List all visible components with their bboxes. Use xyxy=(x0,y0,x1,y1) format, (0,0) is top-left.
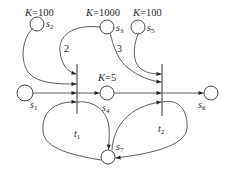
place-s2 xyxy=(30,17,44,31)
place-label-s1: s1 xyxy=(30,99,38,112)
place-label-s3: s3 xyxy=(116,22,124,35)
place-label-s4: s4 xyxy=(102,102,110,115)
capacity-label-s3: K=1000 xyxy=(85,7,120,18)
place-s5 xyxy=(131,20,145,34)
transition-label-t2: t2 xyxy=(158,123,165,136)
arc-s5-to-t2 xyxy=(134,32,161,74)
place-s7 xyxy=(101,150,115,164)
arc-weight-s3-t2: 3 xyxy=(117,43,122,54)
place-s3 xyxy=(100,20,114,34)
arc-s2-to-t1 xyxy=(23,29,76,84)
transition-label-t1: t1 xyxy=(74,128,81,141)
arc-s7-to-t1 xyxy=(43,102,101,160)
place-label-s6: s6 xyxy=(198,99,206,112)
capacity-label-s5: K=100 xyxy=(132,7,162,18)
capacity-label-s2: K=100 xyxy=(24,7,54,18)
place-s4 xyxy=(100,86,114,100)
place-label-s2: s2 xyxy=(46,18,54,31)
arc-weight-s3-t1: 2 xyxy=(64,43,69,54)
place-label-s7: s7 xyxy=(116,141,124,154)
petri-net-diagram: K=100 K=1000 K=100 K=5 s1 s2 s3 s4 s5 s6… xyxy=(0,0,228,173)
arc-t2-to-s7 xyxy=(116,101,188,158)
place-s6 xyxy=(204,86,218,100)
capacity-label-s4: K=5 xyxy=(97,72,116,83)
place-label-s5: s5 xyxy=(147,22,155,35)
